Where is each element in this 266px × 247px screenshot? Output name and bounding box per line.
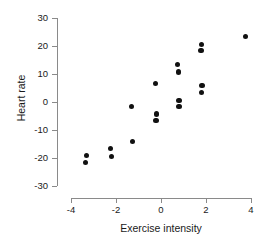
data-point: [176, 98, 181, 103]
y-tick-mark: [52, 102, 57, 103]
data-point: [84, 153, 89, 158]
data-point: [176, 104, 181, 109]
x-tick-mark: [206, 198, 207, 203]
data-point: [108, 146, 113, 151]
data-point: [176, 69, 181, 74]
data-point: [154, 111, 159, 116]
data-point: [83, 160, 88, 165]
data-point: [129, 104, 134, 109]
y-tick-mark: [52, 46, 57, 47]
y-tick-mark: [52, 186, 57, 187]
y-axis-line: [57, 18, 58, 186]
x-tick-mark: [116, 198, 117, 203]
y-tick-label: 30: [20, 13, 48, 23]
y-tick-label: -30: [20, 181, 48, 191]
data-point: [153, 81, 158, 86]
y-tick-mark: [52, 74, 57, 75]
x-tick-label: 2: [194, 205, 218, 215]
x-tick-label: -4: [59, 205, 83, 215]
x-tick-label: 0: [149, 205, 173, 215]
x-tick-label: -2: [104, 205, 128, 215]
data-point: [199, 90, 204, 95]
y-tick-mark: [52, 158, 57, 159]
x-tick-mark: [161, 198, 162, 203]
x-tick-label: 4: [239, 205, 263, 215]
data-point: [199, 83, 204, 88]
y-tick-mark: [52, 18, 57, 19]
data-point: [153, 118, 158, 123]
scatter-plot-figure: -30-20-100102030 -4-2024 Exercise intens…: [0, 0, 266, 247]
data-point: [198, 48, 203, 53]
x-tick-mark: [251, 198, 252, 203]
data-point: [199, 42, 204, 47]
data-point: [243, 34, 248, 39]
y-tick-mark: [52, 130, 57, 131]
y-axis-label: Heart rate: [15, 38, 27, 158]
data-point: [175, 62, 180, 67]
x-tick-mark: [71, 198, 72, 203]
data-point: [109, 154, 114, 159]
x-axis-label: Exercise intensity: [71, 222, 251, 234]
plot-area: -30-20-100102030 -4-2024 Exercise intens…: [0, 0, 266, 247]
data-point: [130, 139, 135, 144]
